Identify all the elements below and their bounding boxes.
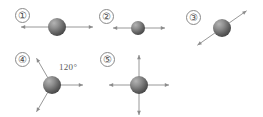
arrow-left-head (21, 25, 25, 29)
arrow-right (144, 26, 165, 30)
arrow-left (113, 26, 132, 30)
arrow-right-head (161, 26, 165, 30)
diagram-3 (197, 11, 246, 45)
arrow-left-head (109, 83, 113, 87)
arrow-right (65, 25, 93, 29)
arrow-up-left (37, 58, 49, 78)
arrow-up (137, 55, 141, 77)
arrow-left (21, 25, 49, 29)
diagram-4-numeral-label: ④ (15, 52, 30, 67)
arrow-right-head (165, 83, 169, 87)
arrow-left (109, 83, 131, 87)
diagram-5-numeral-label: ⑤ (100, 52, 115, 67)
arrow-up-right-head (242, 11, 247, 15)
arrow-down-left-head (197, 41, 202, 45)
arrow-down (137, 93, 141, 115)
diagram-2-numeral-label: ② (99, 9, 114, 24)
arrow-up-head (137, 55, 141, 59)
diagram-5-sphere-icon (130, 76, 148, 94)
diagram-4-angle-label: 120° (59, 62, 77, 72)
arrow-down-left (37, 92, 49, 112)
diagram-1-numeral-label: ① (15, 8, 30, 23)
physics-force-diagram-figure: ①②③④120°⑤ (0, 0, 263, 117)
arrow-down-left (197, 33, 215, 46)
diagram-2-sphere-icon (131, 21, 145, 35)
arrow-right-head (89, 25, 93, 29)
diagram-1-sphere-icon (48, 18, 66, 36)
diagram-1 (21, 18, 93, 36)
diagram-5 (109, 55, 169, 115)
diagram-3-numeral-label: ③ (186, 10, 201, 25)
arrow-down-head (137, 111, 141, 115)
diagram-3-sphere-icon (213, 19, 231, 37)
arrow-left-head (113, 26, 117, 30)
diagram-2 (113, 21, 165, 35)
diagram-4-sphere-icon (43, 76, 61, 94)
arrow-right (60, 83, 83, 87)
figure-canvas (0, 0, 263, 117)
arrow-right-head (79, 83, 83, 87)
arrow-right (147, 83, 169, 87)
arrow-up-right (229, 11, 247, 24)
